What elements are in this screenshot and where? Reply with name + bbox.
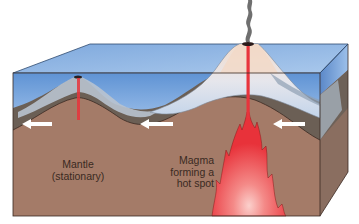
smoke-plume xyxy=(246,0,253,42)
old-magma-conduit xyxy=(77,78,80,120)
active-magma-conduit xyxy=(247,46,250,118)
mantle-label-line2: (stationary) xyxy=(40,171,116,183)
hot-spot-diagram xyxy=(0,0,359,224)
block-right-face xyxy=(320,44,348,216)
magma-label-line1: Magma xyxy=(150,155,214,167)
volcano-crater xyxy=(242,42,254,46)
magma-label: Magma forming a hot spot xyxy=(150,155,214,190)
mantle-label-line1: Mantle xyxy=(40,159,116,171)
magma-label-line3: hot spot xyxy=(150,178,214,190)
mantle-label: Mantle (stationary) xyxy=(40,159,116,182)
ocean-surface xyxy=(13,44,348,73)
